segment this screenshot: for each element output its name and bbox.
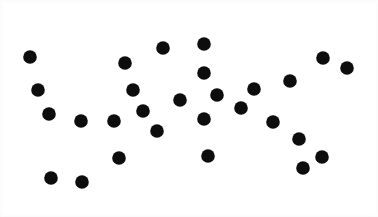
data-point: [292, 132, 306, 146]
data-point: [23, 50, 37, 64]
data-point: [126, 83, 140, 97]
data-point: [44, 171, 58, 185]
dot-pattern-canvas: [0, 0, 378, 217]
data-point: [201, 149, 215, 163]
data-point: [107, 114, 121, 128]
data-point: [31, 83, 45, 97]
data-point: [136, 104, 150, 118]
data-point: [316, 51, 330, 65]
data-point: [173, 93, 187, 107]
data-point: [283, 74, 297, 88]
data-point: [197, 112, 211, 126]
data-point: [150, 124, 164, 138]
data-point: [234, 101, 248, 115]
data-point: [74, 114, 88, 128]
data-point: [118, 56, 132, 70]
data-point: [340, 61, 354, 75]
data-point: [197, 37, 211, 51]
data-point: [42, 107, 56, 121]
scatter-plot-svg: [0, 0, 378, 217]
data-point: [266, 115, 280, 129]
data-point: [296, 161, 310, 175]
data-point: [197, 66, 211, 80]
data-point: [75, 175, 89, 189]
data-point: [315, 150, 329, 164]
plot-background: [0, 0, 378, 217]
data-point: [112, 151, 126, 165]
data-point: [247, 82, 261, 96]
data-point: [210, 88, 224, 102]
data-point: [156, 41, 170, 55]
